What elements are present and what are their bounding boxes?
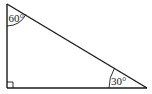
angle-label-30: 30° <box>111 75 126 87</box>
angle-label-60: 60° <box>9 12 24 24</box>
triangle-diagram: 60° 30° <box>0 0 152 94</box>
right-angle-marker <box>7 82 13 88</box>
